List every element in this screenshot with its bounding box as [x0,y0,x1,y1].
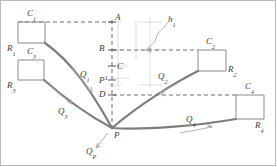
label-r4: R4 [255,121,264,132]
reservoir-r3-body [18,60,44,80]
pipe-q4 [112,119,236,129]
label-q1: Q1 [80,70,90,81]
flow-arrow-q4-shaft [180,127,212,133]
label-r1: R1 [7,44,16,55]
label-c1: C1 [27,9,36,20]
label-r2: R2 [228,65,237,76]
label-a: A [115,13,121,22]
h1-leader [146,22,168,52]
pipe-q1 [45,43,112,128]
construction-grid [108,18,162,90]
label-b: B [99,44,105,53]
h1-leader-curve [146,22,168,50]
figure-canvas: C1 C3 C2 C4 R1 R3 R2 R4 Q1 Q2 Q3 Q4 QP A… [0,0,277,167]
label-c2: C2 [206,37,215,48]
label-h1: h1 [168,15,176,26]
flow-arrow-q2-shaft [160,83,178,93]
pipe-q3 [44,80,112,128]
label-q2: Q2 [158,72,168,83]
flow-arrow-q4-head [207,124,212,127]
reservoir-r2-body [198,50,226,71]
flow-arrows [49,68,212,148]
flow-arrow-qp-shaft [96,133,108,148]
label-c3: C3 [27,47,36,58]
label-c4: C4 [245,82,254,93]
schematic-drawing [0,0,277,167]
label-q3: Q3 [58,107,68,118]
datum-lines [18,20,236,128]
label-p: P [114,131,120,140]
reservoir-r1-body [18,22,45,43]
label-qp: QP [86,147,96,158]
label-c: C [117,62,123,71]
pipe-network [44,43,236,129]
label-d: D [99,90,106,99]
flow-arrow-q3-shaft [49,85,72,104]
label-q4: Q4 [186,115,196,126]
reservoir-r4-body [236,95,264,119]
label-r3: R3 [7,81,16,92]
label-p-prime: P1 [99,76,108,85]
